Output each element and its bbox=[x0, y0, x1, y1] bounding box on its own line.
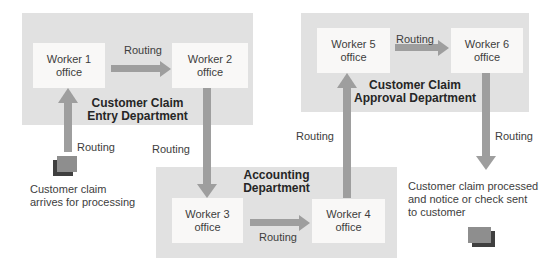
worker6-office-label: office bbox=[451, 51, 523, 64]
worker3-name-label: Worker 3 bbox=[172, 208, 243, 221]
claim-document-icon-front bbox=[57, 156, 77, 172]
entry-department-label-line1: Customer Claim bbox=[22, 97, 253, 110]
worker4-name-label: Worker 4 bbox=[312, 208, 385, 221]
worker1-office-box: Worker 1 office bbox=[33, 43, 105, 88]
routing-arrow-worker6-to-customer-shaft bbox=[482, 73, 490, 156]
approval-department-label-line2: Approval Department bbox=[301, 92, 529, 105]
claim-document-icon bbox=[53, 156, 78, 177]
entry-department-label: Customer Claim Entry Department bbox=[22, 97, 253, 122]
worker3-office-box: Worker 3 office bbox=[172, 198, 243, 243]
routing-arrow-worker4-to-worker5-shaft bbox=[343, 87, 351, 198]
routing-label-claim-to-worker1: Routing bbox=[77, 141, 115, 153]
worker2-name-label: Worker 2 bbox=[172, 53, 248, 66]
worker4-office-box: Worker 4 office bbox=[312, 199, 385, 243]
start-caption-line1: Customer claim bbox=[30, 183, 135, 196]
routing-arrow-claim-to-worker1-head-icon bbox=[58, 88, 78, 103]
routing-arrow-worker5-to-worker6-shaft bbox=[395, 44, 438, 51]
routing-arrow-worker1-to-worker2-head-icon bbox=[160, 61, 171, 77]
worker5-office-box: Worker 5 office bbox=[317, 28, 390, 73]
worker2-office-box: Worker 2 office bbox=[172, 43, 248, 88]
routing-arrow-worker3-to-worker4-shaft bbox=[250, 219, 299, 226]
routing-arrow-worker3-to-worker4-head-icon bbox=[299, 215, 310, 231]
routing-label-worker5-to-worker6: Routing bbox=[396, 33, 434, 45]
worker6-name-label: Worker 6 bbox=[451, 38, 523, 51]
worker5-name-label: Worker 5 bbox=[317, 38, 390, 51]
routing-label-worker2-to-worker3: Routing bbox=[152, 143, 190, 155]
approval-department-label: Customer Claim Approval Department bbox=[301, 79, 529, 104]
routing-arrow-worker1-to-worker2-shaft bbox=[111, 65, 160, 72]
start-caption-line2: arrives for processing bbox=[30, 196, 135, 209]
end-caption-line1: Customer claim processed bbox=[408, 180, 538, 193]
worker3-office-label: office bbox=[172, 221, 243, 234]
claim-processing-flow-diagram: Customer Claim Entry Department Customer… bbox=[0, 0, 558, 273]
routing-arrow-worker2-to-worker3-head-icon bbox=[197, 184, 217, 198]
routing-arrow-claim-to-worker1-shaft bbox=[64, 103, 72, 152]
worker2-office-label: office bbox=[172, 66, 248, 79]
routing-arrow-worker4-to-worker5-head-icon bbox=[337, 73, 357, 88]
accounting-department-label-line2: Department bbox=[156, 182, 397, 195]
worker5-office-label: office bbox=[317, 51, 390, 64]
routing-arrow-worker5-to-worker6-head-icon bbox=[438, 40, 449, 56]
end-caption-line3: to customer bbox=[408, 206, 538, 219]
end-caption: Customer claim processed and notice or c… bbox=[408, 180, 538, 219]
worker6-office-box: Worker 6 office bbox=[451, 28, 523, 73]
accounting-department-label-line1: Accounting bbox=[156, 169, 397, 182]
routing-label-worker6-to-customer: Routing bbox=[495, 130, 533, 142]
routing-arrow-worker2-to-worker3-shaft bbox=[203, 88, 211, 184]
accounting-department-label: Accounting Department bbox=[156, 169, 397, 194]
worker1-name-label: Worker 1 bbox=[33, 53, 105, 66]
routing-label-worker3-to-worker4: Routing bbox=[259, 231, 297, 243]
entry-department-label-line2: Entry Department bbox=[22, 110, 253, 123]
worker1-office-label: office bbox=[33, 66, 105, 79]
routing-arrow-worker6-to-customer-head-icon bbox=[476, 156, 496, 170]
routing-label-worker1-to-worker2: Routing bbox=[124, 44, 162, 56]
processed-claim-document-icon bbox=[468, 227, 496, 248]
start-caption: Customer claim arrives for processing bbox=[30, 183, 135, 209]
worker4-office-label: office bbox=[312, 221, 385, 234]
approval-department-label-line1: Customer Claim bbox=[301, 79, 529, 92]
end-caption-line2: and notice or check sent bbox=[408, 193, 538, 206]
processed-claim-document-icon-front bbox=[468, 227, 491, 243]
routing-label-worker4-to-worker5: Routing bbox=[296, 130, 334, 142]
